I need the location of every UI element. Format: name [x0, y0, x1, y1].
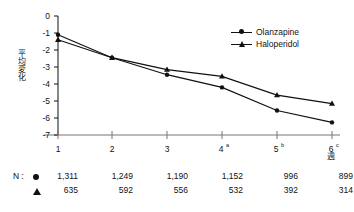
- legend-item-olanzapine: Olanzapine: [231, 26, 299, 38]
- triangle-marker-icon: [231, 39, 252, 49]
- n-value-haloperidol-w6: 314: [313, 185, 353, 195]
- n-value-olanzapine-w6: 899: [313, 171, 353, 181]
- legend-label-haloperidol: Haloperidol: [256, 39, 299, 49]
- y-tick-label-m6: -6: [42, 113, 50, 123]
- circle-marker-icon: [231, 27, 252, 37]
- sample-size-table: N : 1,311 1,249 1,190 1,152 996 899 635 …: [0, 170, 354, 198]
- x-tick-label-3: 3: [165, 144, 170, 154]
- n-table-lead-label: N :: [13, 171, 24, 181]
- y-tick-label-m2: -2: [42, 45, 50, 55]
- n-value-olanzapine-w1: 1,311: [38, 171, 78, 181]
- y-tick-label-0: 0: [45, 11, 50, 21]
- y-tick-label-m4: -4: [42, 79, 50, 89]
- y-tick-label-m5: -5: [42, 96, 50, 106]
- n-value-olanzapine-w5: 996: [258, 171, 298, 181]
- table-row: N : 1,311 1,249 1,190 1,152 996 899: [0, 170, 354, 184]
- x-axis-caption: 週: [327, 150, 335, 161]
- n-value-olanzapine-w3: 1,190: [148, 171, 188, 181]
- x-tick-superscript-4: a: [226, 142, 230, 148]
- x-tick-superscript-5: b: [281, 142, 284, 148]
- table-row: 635 592 556 532 392 314: [0, 184, 354, 198]
- x-tick-label-2: 2: [110, 144, 115, 154]
- legend-label-olanzapine: Olanzapine: [256, 27, 299, 37]
- y-axis-caption: 平均変化: [13, 49, 25, 81]
- y-tick-label-m7: -7: [42, 130, 50, 140]
- legend-item-haloperidol: Haloperidol: [231, 38, 299, 50]
- chart-legend: Olanzapine Haloperidol: [231, 26, 299, 50]
- n-value-haloperidol-w1: 635: [38, 185, 78, 195]
- n-value-haloperidol-w2: 592: [93, 185, 133, 195]
- n-value-haloperidol-w5: 392: [258, 185, 298, 195]
- y-tick-label-m1: -1: [42, 28, 50, 38]
- x-tick-superscript-6: c: [336, 142, 339, 148]
- n-value-haloperidol-w4: 532: [203, 185, 243, 195]
- x-tick-label-1: 1: [56, 144, 61, 154]
- x-tick-label-4: 4: [219, 144, 224, 154]
- n-value-olanzapine-w4: 1,152: [203, 171, 243, 181]
- y-tick-label-m3: -3: [42, 62, 50, 72]
- x-tick-label-5: 5: [274, 144, 279, 154]
- n-value-olanzapine-w2: 1,249: [93, 171, 133, 181]
- chart-figure: 0 -1 -2 -3 -4 -5 -6 -7 1 2 3 4 a 5: [0, 0, 354, 212]
- n-value-haloperidol-w3: 556: [148, 185, 188, 195]
